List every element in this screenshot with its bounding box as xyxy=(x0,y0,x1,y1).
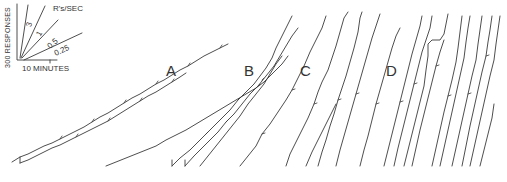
panel-b-records xyxy=(172,16,298,166)
panel-label-b: B xyxy=(244,62,254,79)
panel-label-d: D xyxy=(386,62,397,79)
legend-rate-header: R's/SEC xyxy=(53,4,83,13)
reinforcement-ticks xyxy=(60,45,489,139)
panel-c-records xyxy=(240,12,400,166)
cumulative-record-figure: 300 RESPONSES 10 MINUTES R's/SEC 3 1 0.5… xyxy=(0,0,507,182)
panel-label-a: A xyxy=(166,62,176,79)
panel-label-c: C xyxy=(300,62,311,79)
records-svg xyxy=(0,0,507,182)
legend-y-axis-label: 300 RESPONSES xyxy=(4,7,11,68)
panel-d-records xyxy=(384,14,500,166)
legend-x-axis-label: 10 MINUTES xyxy=(22,64,69,73)
